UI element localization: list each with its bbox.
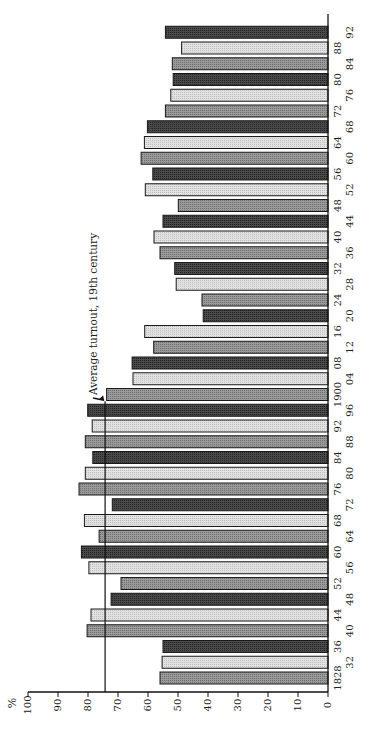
bar-1868 — [84, 515, 328, 527]
category-label: 48 — [344, 593, 355, 606]
bar-1992 — [165, 26, 328, 38]
value-tick-label: 20 — [262, 699, 273, 712]
category-label: 36 — [344, 246, 355, 259]
bar-1904 — [133, 373, 328, 385]
category-label: 88 — [332, 42, 343, 55]
bar-1852 — [121, 578, 328, 590]
bar-1936 — [160, 247, 328, 259]
bar-1916 — [145, 326, 328, 338]
category-label: 16 — [332, 325, 343, 338]
bar-1840 — [87, 625, 328, 637]
category-label: 92 — [344, 26, 355, 39]
bar-1984 — [172, 58, 328, 70]
bar-1912 — [154, 341, 328, 353]
category-label: 28 — [344, 278, 355, 291]
category-label: 32 — [332, 262, 343, 275]
category-label: 20 — [344, 309, 355, 322]
bar-1884 — [93, 452, 328, 464]
category-label: 04 — [344, 372, 355, 385]
bar-1988 — [182, 42, 328, 54]
bar-1940 — [154, 231, 328, 243]
value-tick-label: 80 — [82, 699, 93, 712]
value-tick-label: 30 — [232, 699, 243, 712]
category-label: 56 — [332, 168, 343, 181]
bar-1948 — [178, 200, 328, 212]
bar-1848 — [111, 593, 328, 605]
category-label: 40 — [332, 231, 343, 244]
bar-1872 — [112, 499, 328, 511]
category-label: 72 — [332, 105, 343, 118]
category-label: 88 — [344, 435, 355, 448]
bar-1880 — [85, 467, 328, 479]
bar-1876 — [79, 483, 328, 495]
bar-1908 — [132, 357, 328, 369]
category-label: 40 — [344, 624, 355, 637]
bar-1836 — [163, 641, 328, 653]
value-axis-label: % — [6, 698, 19, 708]
bar-1956 — [153, 168, 328, 180]
bar-1972 — [165, 105, 328, 117]
category-label: 72 — [344, 498, 355, 511]
category-label: 92 — [332, 420, 343, 433]
category-label: 96 — [344, 404, 355, 417]
category-label: 52 — [344, 183, 355, 196]
bar-1980 — [173, 74, 328, 86]
bar-1944 — [163, 215, 328, 227]
value-tick-label: 10 — [292, 699, 303, 712]
category-label: 84 — [344, 57, 355, 70]
category-label: 68 — [344, 120, 355, 133]
category-label: 48 — [332, 199, 343, 212]
bar-1968 — [147, 121, 328, 133]
category-label: 1828 — [332, 665, 343, 690]
category-label: 08 — [332, 357, 343, 370]
category-label: 56 — [344, 561, 355, 574]
category-label: 64 — [344, 530, 355, 543]
bar-1924 — [202, 294, 328, 306]
category-label: 44 — [332, 609, 343, 622]
category-label: 12 — [344, 341, 355, 354]
value-tick-label: 40 — [202, 699, 213, 712]
category-label: 68 — [332, 514, 343, 527]
value-tick-label: 100 — [22, 695, 33, 714]
bar-1844 — [91, 609, 328, 621]
category-label: 80 — [332, 73, 343, 86]
average-annotation: Average turnout, 19th century — [87, 233, 99, 396]
bar-1960 — [141, 152, 328, 164]
bar-1864 — [99, 530, 328, 542]
bar-1892 — [92, 420, 328, 432]
bar-1964 — [144, 137, 328, 149]
category-label: 76 — [344, 89, 355, 102]
bar-1920 — [203, 310, 328, 322]
bar-1952 — [145, 184, 328, 196]
value-tick-label: 0 — [322, 702, 333, 708]
category-label: 64 — [332, 136, 343, 149]
category-label: 60 — [344, 152, 355, 165]
turnout-bar-chart: 1828323640444852566064687276808488929619… — [0, 0, 382, 738]
category-label: 60 — [332, 546, 343, 559]
value-tick-label: 70 — [112, 699, 123, 712]
category-label: 24 — [332, 294, 343, 307]
category-label: 44 — [344, 215, 355, 228]
category-label: 32 — [344, 656, 355, 669]
bar-1856 — [89, 562, 328, 574]
value-tick-label: 50 — [172, 699, 183, 712]
category-label: 84 — [332, 451, 343, 464]
category-label: 76 — [332, 483, 343, 496]
category-label: 36 — [332, 640, 343, 653]
bar-1928 — [176, 278, 328, 290]
bar-1888 — [85, 436, 328, 448]
bar-1896 — [88, 404, 328, 416]
bar-1828 — [160, 672, 328, 684]
bar-1932 — [175, 263, 328, 275]
bars-group — [79, 26, 328, 684]
category-label: 52 — [332, 577, 343, 590]
bar-1832 — [162, 656, 328, 668]
bar-1976 — [171, 89, 328, 101]
category-label: 80 — [344, 467, 355, 480]
value-tick-label: 90 — [52, 699, 63, 712]
value-tick-label: 60 — [142, 699, 153, 712]
bar-1900 — [107, 389, 328, 401]
bar-1860 — [81, 546, 328, 558]
category-label: 1900 — [332, 382, 343, 407]
